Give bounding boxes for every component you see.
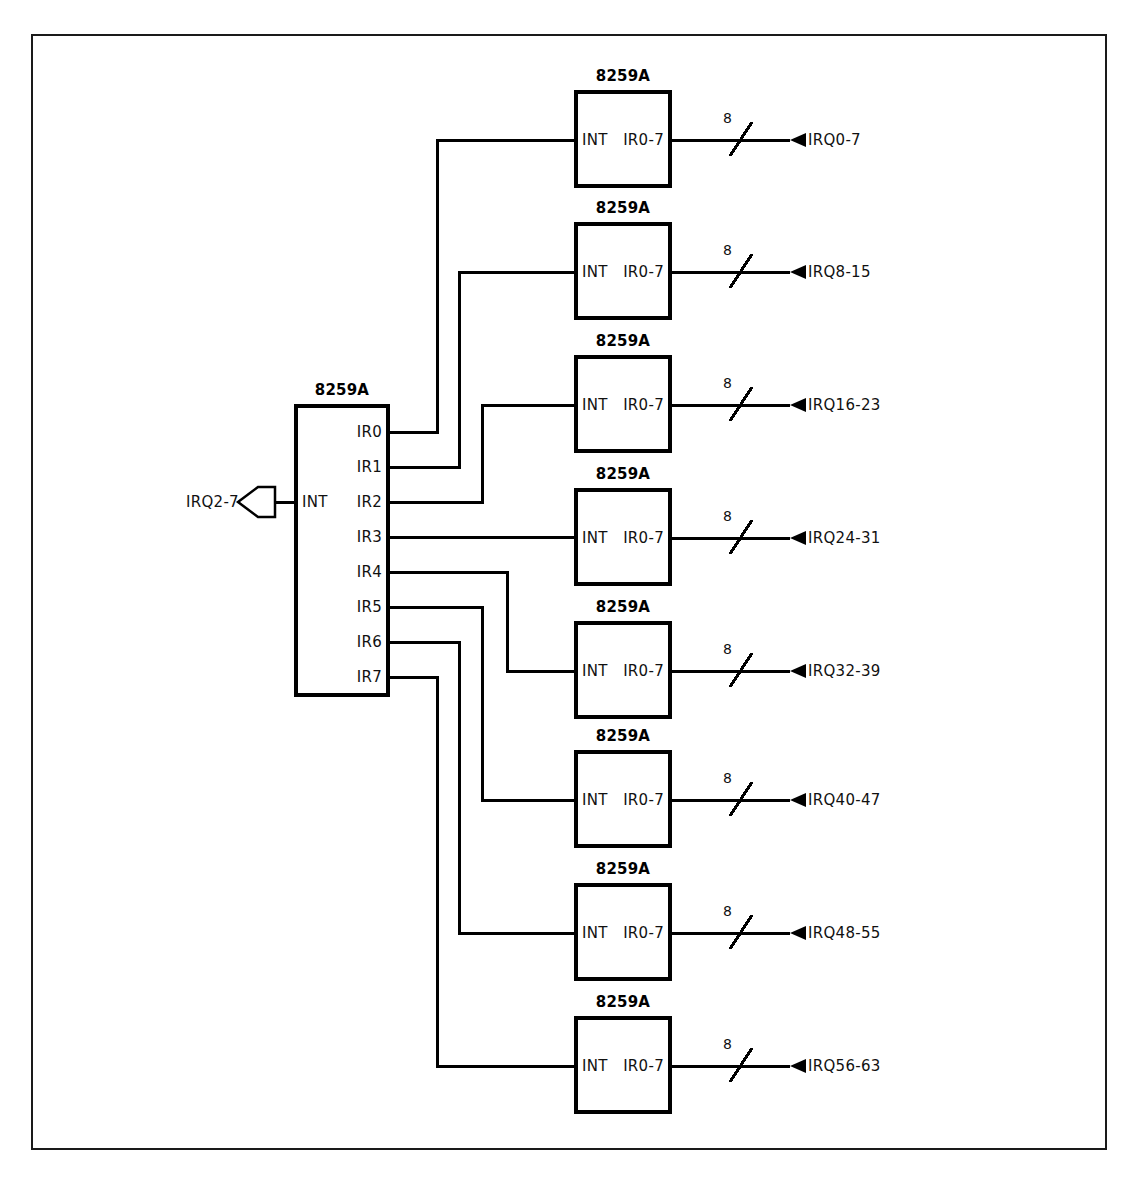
slave-4-chip-title: 8259A — [574, 465, 672, 483]
slave-7-out-pin-label: IR0-7 — [608, 924, 664, 942]
master-pin-ir2: IR2 — [330, 493, 382, 511]
slave-2-int-pin-label: INT — [582, 263, 608, 281]
slave-8-bus-width: 8 — [723, 1036, 732, 1052]
slave-3-int-pin-label: INT — [582, 396, 608, 414]
slave-6-out-pin-label: IR0-7 — [608, 791, 664, 809]
slave-2-bus-label: IRQ8-15 — [808, 263, 871, 281]
slave-8-out-pin-label: IR0-7 — [608, 1057, 664, 1075]
slave-7-chip-title: 8259A — [574, 860, 672, 878]
slave-7-bus-width: 8 — [723, 903, 732, 919]
slave-2-out-pin-label: IR0-7 — [608, 263, 664, 281]
slave-6-int-pin-label: INT — [582, 791, 608, 809]
slave-4-bus-label: IRQ24-31 — [808, 529, 881, 547]
master-pin-ir3: IR3 — [330, 528, 382, 546]
slave-3-out-pin-label: IR0-7 — [608, 396, 664, 414]
master-pin-ir7: IR7 — [330, 668, 382, 686]
diagram-canvas: 8259A INT IR0 IR1 IR2 IR3 IR4 IR5 IR6 IR… — [0, 0, 1135, 1178]
master-chip-box — [294, 404, 390, 697]
master-int-pin-label: INT — [302, 493, 328, 511]
slave-4-int-pin-label: INT — [582, 529, 608, 547]
slave-5-int-pin-label: INT — [582, 662, 608, 680]
slave-3-bus-width: 8 — [723, 375, 732, 391]
master-pin-ir4: IR4 — [330, 563, 382, 581]
slave-2-chip-title: 8259A — [574, 199, 672, 217]
slave-5-bus-width: 8 — [723, 641, 732, 657]
master-pin-ir5: IR5 — [330, 598, 382, 616]
slave-6-bus-label: IRQ40-47 — [808, 791, 881, 809]
master-pin-ir1: IR1 — [330, 458, 382, 476]
slave-8-bus-label: IRQ56-63 — [808, 1057, 881, 1075]
slave-8-int-pin-label: INT — [582, 1057, 608, 1075]
slave-1-chip-title: 8259A — [574, 67, 672, 85]
slave-2-bus-width: 8 — [723, 242, 732, 258]
slave-7-bus-label: IRQ48-55 — [808, 924, 881, 942]
slave-8-chip-title: 8259A — [574, 993, 672, 1011]
master-chip-title: 8259A — [294, 381, 390, 399]
slave-5-out-pin-label: IR0-7 — [608, 662, 664, 680]
irq2-7-input-label: IRQ2-7 — [186, 493, 239, 511]
slave-1-int-pin-label: INT — [582, 131, 608, 149]
master-pin-ir6: IR6 — [330, 633, 382, 651]
slave-5-bus-label: IRQ32-39 — [808, 662, 881, 680]
slave-1-bus-width: 8 — [723, 110, 732, 126]
slave-1-bus-label: IRQ0-7 — [808, 131, 861, 149]
master-pin-ir0: IR0 — [330, 423, 382, 441]
diagram-border-frame — [31, 34, 1107, 1150]
slave-4-out-pin-label: IR0-7 — [608, 529, 664, 547]
slave-3-chip-title: 8259A — [574, 332, 672, 350]
slave-3-bus-label: IRQ16-23 — [808, 396, 881, 414]
slave-5-chip-title: 8259A — [574, 598, 672, 616]
slave-6-chip-title: 8259A — [574, 727, 672, 745]
slave-4-bus-width: 8 — [723, 508, 732, 524]
slave-7-int-pin-label: INT — [582, 924, 608, 942]
slave-6-bus-width: 8 — [723, 770, 732, 786]
slave-1-out-pin-label: IR0-7 — [608, 131, 664, 149]
